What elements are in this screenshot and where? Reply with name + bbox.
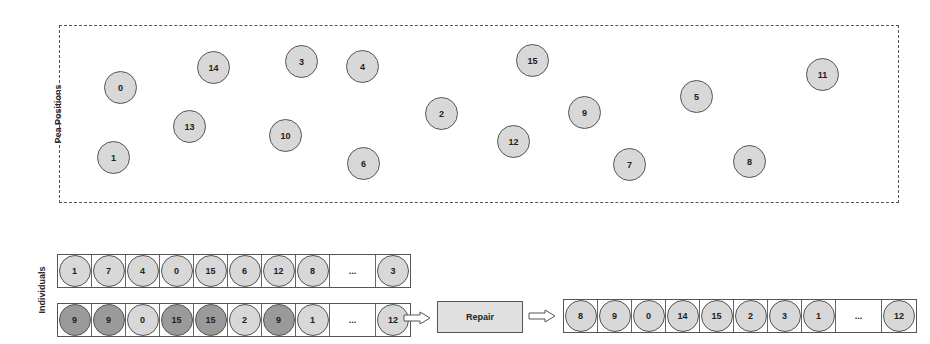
ellipsis-cell: ... [330,304,376,336]
gene: 15 [701,300,733,332]
individuals-label: Individuals [37,266,47,313]
pea-node: 5 [680,80,713,113]
pea-node: 8 [733,145,766,178]
gene-cell: 1 [802,300,836,332]
gene-cell: 15 [194,255,228,287]
gene: 0 [161,255,193,287]
pea-node: 0 [104,71,137,104]
duplicate-gene: 9 [59,304,91,336]
repair-box: Repair [437,301,523,333]
gene: 2 [229,304,261,336]
duplicate-gene: 15 [195,304,227,336]
gene-cell: 0 [160,255,194,287]
gene: 15 [195,255,227,287]
pea-node: 11 [806,58,839,91]
pea-node: 6 [347,147,380,180]
gene: 1 [59,255,91,287]
gene: 8 [297,255,329,287]
gene-cell: 9 [598,300,632,332]
gene-cell: 2 [734,300,768,332]
gene: 7 [93,255,125,287]
gene: 2 [735,300,767,332]
gene: 0 [633,300,665,332]
gene-cell: 9 [262,304,296,336]
pea-node: 4 [346,50,379,83]
pea-node: 7 [613,148,646,181]
pea-node: 1 [97,141,130,174]
individual-2-array: 9901515291...12 [57,303,411,337]
gene-cell: 0 [632,300,666,332]
gene-cell: 15 [160,304,194,336]
gene: 9 [599,300,631,332]
pea-positions-area: 0123456789101112131415 [59,25,899,203]
gene-cell: 14 [666,300,700,332]
gene-cell: 1 [296,304,330,336]
gene-cell: 15 [700,300,734,332]
gene: 3 [769,300,801,332]
individual-1-array: 1740156128...3 [57,254,411,288]
gene-cell: 9 [58,304,92,336]
pea-node: 9 [568,96,601,129]
gene-cell: 8 [296,255,330,287]
duplicate-gene: 9 [263,304,295,336]
gene: 6 [229,255,261,287]
gene-cell: 12 [882,300,916,332]
pea-node: 3 [285,45,318,78]
pea-node: 13 [173,110,206,143]
arrow-right-icon [528,309,556,323]
ellipsis-cell: ... [330,255,376,287]
gene: 1 [297,304,329,336]
duplicate-gene: 15 [161,304,193,336]
gene-cell: 4 [126,255,160,287]
gene: 3 [377,255,409,287]
gene: 4 [127,255,159,287]
gene-cell: 1 [58,255,92,287]
gene-cell: 8 [564,300,598,332]
gene: 12 [883,300,915,332]
pea-node: 10 [269,119,302,152]
arrow-right-icon [403,311,431,325]
ellipsis-cell: ... [836,300,882,332]
gene-cell: 3 [768,300,802,332]
gene-cell: 0 [126,304,160,336]
gene-cell: 12 [262,255,296,287]
gene-cell: 7 [92,255,126,287]
pea-node: 2 [425,97,458,130]
repaired-individual-array: 8901415231...12 [563,299,917,333]
gene-cell: 6 [228,255,262,287]
gene: 0 [127,304,159,336]
gene: 14 [667,300,699,332]
gene: 8 [565,300,597,332]
gene-cell: 15 [194,304,228,336]
gene: 12 [263,255,295,287]
gene-cell: 9 [92,304,126,336]
duplicate-gene: 9 [93,304,125,336]
gene: 1 [803,300,835,332]
pea-node: 12 [497,125,530,158]
gene-cell: 3 [376,255,410,287]
pea-node: 14 [197,51,230,84]
pea-node: 15 [516,44,549,77]
gene-cell: 2 [228,304,262,336]
